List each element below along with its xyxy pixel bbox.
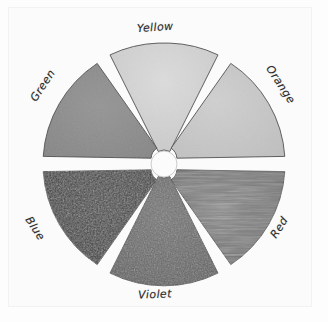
color-wheel-figure: Yellow Orange Red Violet Blue Green: [0, 0, 328, 322]
wheel-hub: [151, 151, 177, 177]
color-wheel-svg: [0, 0, 328, 322]
